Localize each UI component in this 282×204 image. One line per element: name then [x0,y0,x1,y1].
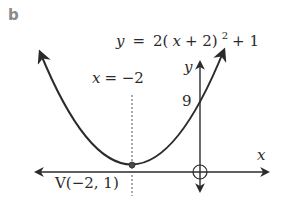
diagram-stage: b x y y = 2( x + 2) 2 + 1 x = −2 [0,0,282,204]
vertex-label: V(−2, 1) [54,174,119,192]
part-label: b [8,6,19,24]
x-axis-label: x [257,146,266,164]
equation-label: y = 2( x + 2) 2 + 1 [115,25,259,50]
equation-body-after: + 1 [232,32,259,50]
vertex-point [129,162,135,168]
y-axis-label: y [183,58,193,76]
equation-lhs: y [115,32,125,50]
equation-var: x [172,32,181,50]
y-intercept-label: 9 [182,92,192,110]
axis-of-symmetry-text: = −2 [104,69,143,87]
equation-equals: = [132,32,145,50]
parabola-diagram: b x y y = 2( x + 2) 2 + 1 x = −2 [0,0,282,204]
axis-of-symmetry-label: x = −2 [92,69,144,87]
equation-exponent: 2 [222,30,228,41]
axis-of-symmetry-var: x [92,69,101,87]
equation-body-mid: + 2) [185,32,218,50]
equation-body-before: 2( [153,32,168,50]
